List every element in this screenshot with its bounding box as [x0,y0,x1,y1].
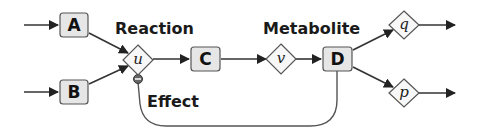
edge-b-u [89,66,128,84]
reaction-v-label: v [277,49,286,67]
reaction-q-label: q [399,15,409,33]
pathway-diagram: A B C D u v q p Reaction Metabolite Effe… [0,0,478,134]
effect-category-label: Effect [147,92,199,111]
node-b[interactable]: B [60,80,88,104]
reaction-category-label: Reaction [115,19,194,38]
node-b-label: B [68,82,81,102]
inhibitor-marker [134,75,143,84]
reaction-p-label: p [399,83,409,101]
reaction-p[interactable]: p [389,79,419,107]
reaction-q[interactable]: q [389,11,419,39]
edges [24,25,455,126]
metabolite-category-label: Metabolite [263,19,360,38]
node-d-label: D [330,49,344,69]
node-a[interactable]: A [60,13,88,37]
node-c[interactable]: C [191,47,220,71]
reaction-v[interactable]: v [266,44,296,74]
reaction-u[interactable]: u [123,45,153,75]
node-c-label: C [199,49,211,69]
node-a-label: A [67,15,81,35]
reaction-u-label: u [133,50,143,68]
edge-d-p [353,67,393,87]
node-d[interactable]: D [323,47,352,71]
